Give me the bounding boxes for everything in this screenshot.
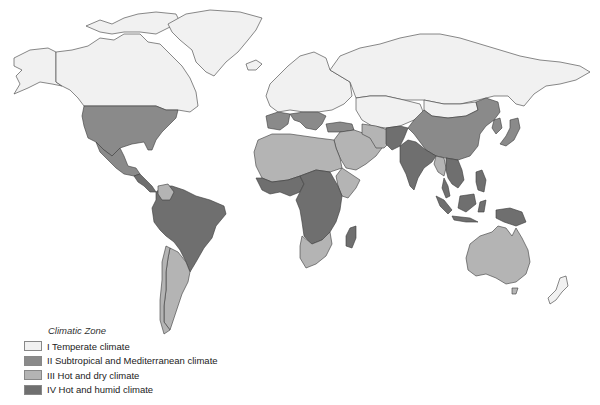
region-borneo — [458, 194, 476, 212]
region-sulawesi — [478, 200, 486, 212]
region-united-states — [82, 106, 178, 156]
region-myanmar — [434, 156, 446, 176]
region-australia — [466, 226, 530, 284]
legend-swatch-zone-3 — [24, 370, 42, 380]
legend-label-zone-1: I Temperate climate — [47, 341, 130, 352]
region-central-america — [134, 174, 156, 192]
region-new-zealand — [548, 276, 568, 304]
legend-swatch-zone-2 — [24, 356, 42, 366]
region-central-africa — [296, 170, 342, 244]
legend-title: Climatic Zone — [48, 325, 218, 336]
legend-swatch-zone-1 — [24, 341, 42, 351]
region-java — [452, 216, 478, 222]
legend-item-zone-1: I Temperate climate — [24, 339, 218, 354]
region-alaska — [14, 48, 62, 94]
region-russia — [330, 34, 590, 106]
region-arctic-islands — [86, 12, 180, 34]
region-japan — [500, 118, 520, 146]
legend-swatch-zone-4 — [24, 385, 42, 395]
region-madagascar — [346, 226, 356, 248]
region-philippines — [476, 170, 486, 192]
region-iberia — [266, 112, 290, 130]
legend-label-zone-4: IV Hot and humid climate — [47, 384, 153, 395]
region-tasmania — [512, 288, 518, 294]
legend-label-zone-2: II Subtropical and Mediterranean climate — [47, 355, 218, 366]
region-malay-peninsula — [442, 178, 450, 198]
legend-item-zone-3: III Hot and dry climate — [24, 368, 218, 383]
region-mediterranean-europe — [290, 112, 326, 130]
region-canada — [56, 34, 198, 112]
region-papua-new-guinea — [496, 208, 526, 226]
legend-item-zone-4: IV Hot and humid climate — [24, 383, 218, 398]
legend-label-zone-3: III Hot and dry climate — [47, 370, 139, 381]
region-iceland — [246, 60, 262, 70]
legend: Climatic Zone I Temperate climate II Sub… — [24, 325, 218, 397]
region-southeast-asia — [446, 158, 464, 188]
region-sumatra — [436, 196, 452, 214]
legend-item-zone-2: II Subtropical and Mediterranean climate — [24, 354, 218, 369]
